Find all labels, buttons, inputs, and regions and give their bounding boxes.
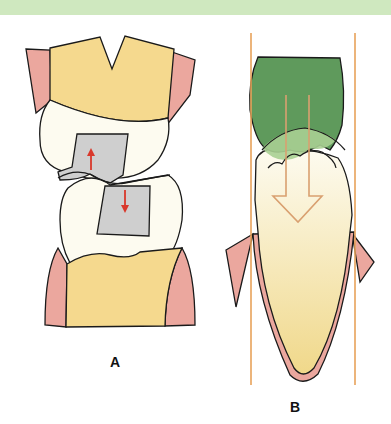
panel-a	[26, 36, 195, 327]
lower-gingiva-left	[45, 248, 67, 327]
gingiva-left	[226, 234, 253, 307]
lower-inlay	[97, 186, 150, 236]
panel-b	[226, 33, 374, 385]
lower-root	[66, 248, 182, 327]
panel-a-label: A	[110, 354, 120, 370]
panel-b-label: B	[290, 399, 300, 415]
dental-figure	[0, 0, 391, 424]
tooth-body	[255, 149, 352, 374]
